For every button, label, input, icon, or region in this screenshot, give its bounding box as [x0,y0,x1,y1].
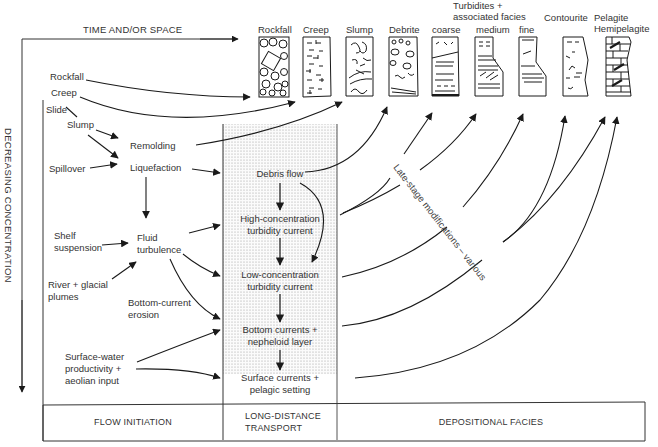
sediment-gravity-flow-diagram: TIME AND/OR SPACE DECREASING CONCENTRATI… [0,0,658,447]
facies-label-medium: medium [476,24,510,35]
facies-label-slump: Slump [346,24,373,35]
init-river-1: River + glacial [48,279,108,290]
turbidites-group-label-1: Turbidites + [453,0,503,11]
facies-label-fine: fine [519,24,534,35]
transport-high-conc-1: High-concentration [224,213,336,224]
init-surface-1: Surface-water [65,351,124,362]
transport-bottom-currents-2: nepheloid layer [224,336,336,347]
facies-label-rockfall: Rockfall [258,24,292,35]
init-slump: Slump [67,119,94,130]
init-surface-3: aeolian input [65,375,119,386]
init-liquefaction: Liquefaction [130,162,181,173]
footer-depositional-facies: DEPOSITIONAL FACIES [337,417,645,428]
transport-debris-flow: Debris flow [224,168,336,179]
facies-fine [519,37,546,96]
init-shelf-2: suspension [54,242,102,253]
init-bottom-erosion-2: erosion [128,309,159,320]
init-surface-2: productivity + [65,363,121,374]
transport-low-conc-1: Low-concentration [224,269,336,280]
facies-label-coarse: coarse [432,24,461,35]
transport-high-conc-2: turbidity current [224,225,336,236]
transport-bottom-currents-1: Bottom currents + [224,324,336,335]
init-bottom-erosion-1: Bottom-current [128,297,191,308]
transport-low-conc-2: turbidity current [224,281,336,292]
facies-label-debrite: Debrite [389,24,420,35]
init-slide: Slide [46,104,67,115]
init-spillover: Spillover [49,163,85,174]
turbidites-group-label-2: associated facies [453,11,526,22]
facies-contourite [563,37,588,96]
axis-concentration-label: DECREASING CONCENTRATION [3,128,14,283]
facies-label-creep: Creep [303,24,329,35]
init-shelf-1: Shelf [54,230,76,241]
transport-surface-currents-2: pelagic setting [224,384,336,395]
facies-label-hemipelagite: Hemipelagite [594,23,649,34]
init-fluid-1: Fluid [137,232,158,243]
facies-coarse [432,37,459,96]
footer-transport-2: TRANSPORT [245,423,302,434]
facies-pelagite [606,37,631,96]
footer-flow-initiation: FLOW INITIATION [43,417,223,428]
init-rockfall: Rockfall [50,71,84,82]
facies-rockfall [259,37,289,97]
footer-transport-1: LONG-DISTANCE [245,411,321,422]
init-creep: Creep [51,87,77,98]
init-remolding: Remolding [130,140,175,151]
init-fluid-2: turbulence [137,244,181,255]
facies-label-pelagite: Pelagite [594,12,628,23]
facies-medium [475,37,503,96]
init-river-2: plumes [48,291,79,302]
facies-debrite [389,37,418,96]
facies-creep [303,37,331,97]
facies-slump [346,37,373,96]
axis-time-space-label: TIME AND/OR SPACE [83,24,182,35]
facies-label-contourite: Contourite [544,12,588,23]
transport-surface-currents-1: Surface currents + [224,372,336,383]
